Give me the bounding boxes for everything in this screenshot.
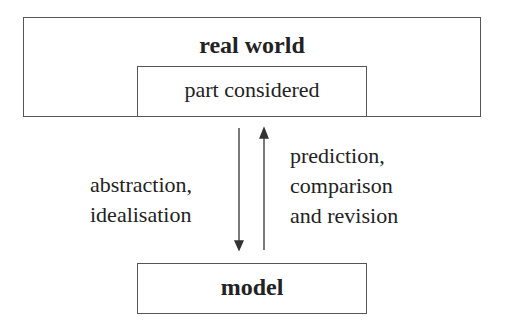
abstraction-label: abstraction, idealisation <box>90 170 192 230</box>
down-arrow-head <box>235 241 243 250</box>
up-arrow-head <box>260 128 268 138</box>
model-label: model <box>138 274 366 301</box>
prediction-label: prediction, comparison and revision <box>290 141 398 231</box>
model-box: model <box>137 263 367 314</box>
